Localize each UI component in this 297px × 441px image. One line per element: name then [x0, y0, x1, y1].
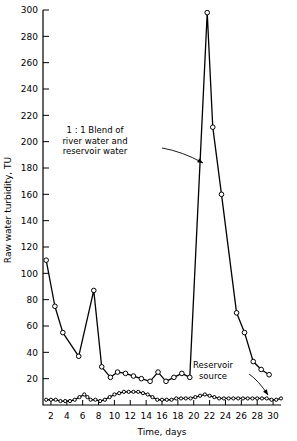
annotation-text-line: 1 : 1 Blend of: [67, 125, 125, 135]
y-tick-label: 40: [27, 348, 39, 358]
data-point-marker: [44, 258, 49, 263]
data-point-marker: [64, 399, 67, 402]
data-point-marker: [219, 192, 224, 197]
chart-axes: [43, 10, 281, 405]
data-point-marker: [99, 399, 102, 402]
y-tick-label: 200: [21, 137, 38, 147]
y-tick-label: 220: [21, 111, 38, 121]
x-tick-label: 20: [188, 411, 200, 421]
data-point-marker: [89, 398, 92, 401]
y-tick-label: 240: [21, 84, 38, 94]
data-point-marker: [78, 396, 81, 399]
x-tick-label: 28: [251, 411, 263, 421]
data-point-marker: [270, 398, 273, 401]
data-point-marker: [131, 374, 136, 379]
chart-series: [44, 10, 283, 402]
annotation-text-line: source: [199, 371, 227, 381]
data-point-marker: [180, 371, 185, 376]
y-tick-label: 120: [21, 242, 38, 252]
data-point-marker: [123, 371, 128, 376]
data-point-marker: [68, 399, 71, 402]
data-point-marker: [170, 398, 173, 401]
data-point-marker: [210, 125, 215, 130]
data-point-marker: [113, 393, 116, 396]
y-tick-label: 140: [21, 216, 38, 226]
y-tick-label: 20: [27, 374, 39, 384]
data-point-marker: [141, 392, 144, 395]
x-tick-label: 24: [220, 411, 232, 421]
x-tick-label: 12: [125, 411, 136, 421]
data-point-marker: [256, 397, 259, 400]
x-tick-label: 16: [156, 411, 168, 421]
data-point-marker: [94, 398, 97, 401]
chart-annotations: 1 : 1 Blend ofriver water andreservoir w…: [62, 125, 268, 395]
y-tick-label: 260: [21, 58, 38, 68]
annotation-text-line: reservoir water: [63, 146, 128, 156]
data-point-marker: [241, 397, 244, 400]
x-tick-label: 4: [64, 411, 70, 421]
data-point-marker: [179, 397, 182, 400]
data-point-marker: [148, 379, 153, 384]
x-tick-label: 26: [236, 411, 248, 421]
data-point-marker: [45, 398, 48, 401]
series-polyline: [46, 13, 269, 382]
data-point-marker: [259, 367, 264, 372]
data-point-marker: [208, 394, 211, 397]
data-point-marker: [165, 398, 168, 401]
blend-annotation: 1 : 1 Blend ofriver water andreservoir w…: [62, 125, 203, 163]
x-tick-label: 6: [80, 411, 86, 421]
x-tick-label: 22: [204, 411, 215, 421]
annotation-arrow-head: [263, 389, 268, 395]
data-point-marker: [187, 375, 192, 380]
data-point-marker: [198, 394, 201, 397]
annotation-arrow-shaft: [162, 148, 203, 163]
data-point-marker: [127, 390, 130, 393]
data-point-marker: [99, 365, 104, 370]
data-point-marker: [115, 370, 120, 375]
data-point-marker: [251, 397, 254, 400]
data-point-marker: [146, 393, 149, 396]
data-point-marker: [122, 390, 125, 393]
data-point-marker: [175, 397, 178, 400]
data-point-marker: [103, 398, 106, 401]
data-point-marker: [222, 397, 225, 400]
data-point-marker: [246, 397, 249, 400]
annotation-text-line: river water and: [62, 136, 127, 146]
data-point-marker: [137, 390, 140, 393]
data-point-marker: [275, 398, 278, 401]
x-tick-label: 14: [140, 411, 152, 421]
y-tick-label: 180: [21, 163, 38, 173]
turbidity-line-chart: 2040608010012014016018020022024026028030…: [0, 0, 297, 441]
data-point-marker: [205, 10, 210, 15]
data-point-marker: [203, 393, 206, 396]
data-point-marker: [118, 392, 121, 395]
series-blend: [44, 10, 272, 383]
data-point-marker: [213, 396, 216, 399]
data-point-marker: [156, 370, 161, 375]
data-point-marker: [83, 393, 86, 396]
x-axis-label: Time, days: [137, 427, 187, 437]
data-point-marker: [59, 399, 62, 402]
data-point-marker: [260, 397, 263, 400]
y-tick-label: 280: [21, 32, 38, 42]
data-point-marker: [76, 354, 81, 359]
data-point-marker: [54, 398, 57, 401]
y-tick-label: 300: [21, 5, 38, 15]
data-point-marker: [91, 288, 96, 293]
y-tick-label: 60: [27, 321, 39, 331]
chart-figure: 2040608010012014016018020022024026028030…: [0, 0, 297, 441]
x-tick-label: 18: [172, 411, 184, 421]
data-point-marker: [242, 330, 247, 335]
data-point-marker: [108, 375, 113, 380]
data-point-marker: [53, 304, 58, 309]
data-point-marker: [49, 398, 52, 401]
x-axis-ticks: 24681012141618202224262830: [48, 400, 279, 421]
data-point-marker: [227, 397, 230, 400]
x-tick-label: 8: [96, 411, 102, 421]
data-point-marker: [86, 396, 89, 399]
data-point-marker: [139, 376, 144, 381]
data-point-marker: [160, 398, 163, 401]
data-point-marker: [267, 372, 272, 377]
data-point-marker: [132, 390, 135, 393]
series-reservoir: [45, 390, 283, 402]
